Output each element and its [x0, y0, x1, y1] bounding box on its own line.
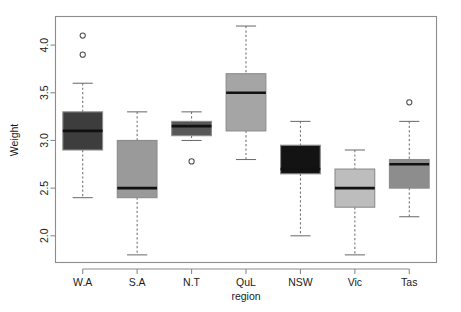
y-tick-label: 3.0 [38, 133, 50, 148]
y-tick-label: 3.5 [38, 85, 50, 100]
y-axis: 2.02.53.03.54.0 [38, 38, 55, 243]
y-tick-label: 2.0 [38, 228, 50, 243]
y-tick-label: 2.5 [38, 181, 50, 196]
y-tick-label: 4.0 [38, 38, 50, 53]
box-nt [172, 112, 212, 164]
x-tick-label-qul: QuL [236, 276, 256, 288]
box-body [226, 74, 266, 131]
x-axis-title: region [231, 290, 260, 302]
x-tick-label-wa: W.A [73, 276, 92, 288]
box-qul [226, 26, 266, 159]
x-tick-label-nsw: NSW [288, 276, 313, 288]
x-tick-label-nt: N.T [183, 276, 201, 288]
box-series [63, 26, 429, 255]
boxplot-canvas: 2.02.53.03.54.0 W.AS.AN.TQuLNSWVicTas We… [0, 0, 461, 312]
box-vic [335, 150, 375, 255]
box-body [172, 121, 212, 135]
x-tick-label-sa: S.A [129, 276, 146, 288]
outlier-point [189, 159, 194, 164]
outlier-point [80, 52, 85, 57]
outlier-point [80, 33, 85, 38]
box-wa [63, 33, 103, 198]
outlier-point [407, 100, 412, 105]
x-tick-label-vic: Vic [348, 276, 362, 288]
y-axis-title: Weight [8, 124, 20, 157]
box-sa [117, 112, 157, 255]
x-tick-label-tas: Tas [401, 276, 417, 288]
boxplot-figure: 2.02.53.03.54.0 W.AS.AN.TQuLNSWVicTas We… [0, 0, 461, 312]
x-axis: W.AS.AN.TQuLNSWVicTas [73, 269, 417, 288]
box-nsw [281, 121, 321, 235]
box-tas [389, 100, 429, 217]
